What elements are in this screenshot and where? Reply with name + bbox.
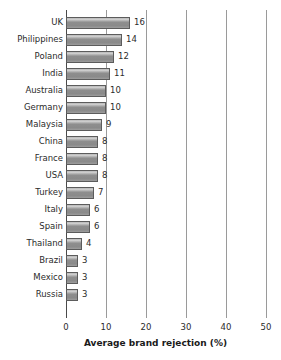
category-label-germany: Germany	[24, 101, 63, 114]
category-label-spain: Spain	[39, 220, 63, 233]
value-label-russia: 3	[82, 288, 87, 301]
category-label-poland: Poland	[35, 50, 63, 63]
bar-row: UK16	[66, 15, 281, 32]
value-label-poland: 12	[118, 50, 129, 63]
bar-row: China8	[66, 134, 281, 151]
bar-rows: UK16Philippines14Poland12India11Australi…	[66, 15, 281, 304]
bar-row: Malaysia9	[66, 117, 281, 134]
bar-usa	[66, 170, 98, 182]
bar-india	[66, 68, 110, 80]
value-label-turkey: 7	[98, 186, 103, 199]
bar-row: Germany10	[66, 100, 281, 117]
bar-row: Spain6	[66, 219, 281, 236]
category-label-turkey: Turkey	[35, 186, 63, 199]
bar-row: Philippines14	[66, 32, 281, 49]
value-label-mexico: 3	[82, 271, 87, 284]
bar-row: France8	[66, 151, 281, 168]
x-axis-title: Average brand rejection (%)	[0, 338, 281, 348]
bar-australia	[66, 85, 106, 97]
category-label-thailand: Thailand	[26, 237, 63, 250]
category-label-uk: UK	[51, 16, 63, 29]
bar-turkey	[66, 187, 94, 199]
bar-row: Thailand4	[66, 236, 281, 253]
value-label-philippines: 14	[126, 33, 137, 46]
category-label-brazil: Brazil	[39, 254, 63, 267]
bar-china	[66, 136, 98, 148]
bar-germany	[66, 102, 106, 114]
cut-off-title	[0, 0, 281, 6]
bar-row: Mexico3	[66, 270, 281, 287]
bar-russia	[66, 289, 78, 301]
x-tick-10: 10	[101, 322, 112, 332]
category-label-usa: USA	[45, 169, 63, 182]
x-tick-20: 20	[141, 322, 152, 332]
category-label-france: France	[35, 152, 63, 165]
bar-philippines	[66, 34, 122, 46]
x-axis-tick-labels: 01020304050	[0, 322, 281, 336]
value-label-australia: 10	[110, 84, 121, 97]
x-tick-0: 0	[63, 322, 68, 332]
value-label-brazil: 3	[82, 254, 87, 267]
bar-thailand	[66, 238, 82, 250]
category-label-russia: Russia	[36, 288, 63, 301]
value-label-germany: 10	[110, 101, 121, 114]
category-label-mexico: Mexico	[33, 271, 63, 284]
x-tick-50: 50	[261, 322, 272, 332]
value-label-usa: 8	[102, 169, 107, 182]
bar-row: Russia3	[66, 287, 281, 304]
bar-row: Italy6	[66, 202, 281, 219]
bar-france	[66, 153, 98, 165]
category-label-philippines: Philippines	[17, 33, 63, 46]
bar-malaysia	[66, 119, 102, 131]
bar-spain	[66, 221, 90, 233]
bar-row: Poland12	[66, 49, 281, 66]
x-tick-40: 40	[221, 322, 232, 332]
x-tick-30: 30	[181, 322, 192, 332]
bar-row: Turkey7	[66, 185, 281, 202]
category-label-australia: Australia	[25, 84, 63, 97]
bar-poland	[66, 51, 114, 63]
value-label-uk: 16	[134, 16, 145, 29]
category-label-china: China	[39, 135, 63, 148]
value-label-india: 11	[114, 67, 125, 80]
value-label-spain: 6	[94, 220, 99, 233]
value-label-malaysia: 9	[106, 118, 111, 131]
bar-mexico	[66, 272, 78, 284]
value-label-china: 8	[102, 135, 107, 148]
category-label-malaysia: Malaysia	[26, 118, 63, 131]
bar-row: India11	[66, 66, 281, 83]
bar-brazil	[66, 255, 78, 267]
category-label-italy: Italy	[45, 203, 63, 216]
category-label-india: India	[42, 67, 63, 80]
bar-uk	[66, 17, 130, 29]
value-label-italy: 6	[94, 203, 99, 216]
value-label-france: 8	[102, 152, 107, 165]
value-label-thailand: 4	[86, 237, 91, 250]
bar-italy	[66, 204, 90, 216]
bar-row: Brazil3	[66, 253, 281, 270]
bar-row: USA8	[66, 168, 281, 185]
bar-chart: UK16Philippines14Poland12India11Australi…	[0, 0, 281, 360]
bar-row: Australia10	[66, 83, 281, 100]
